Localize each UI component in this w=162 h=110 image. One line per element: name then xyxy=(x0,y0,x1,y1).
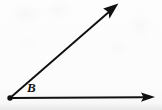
angle-diagram-svg xyxy=(0,0,162,110)
vertex-point-dot-icon xyxy=(7,95,12,100)
diagonal-ray-arrowhead-icon xyxy=(103,4,118,19)
diagonal-ray-line xyxy=(10,11,110,98)
angle-figure: B xyxy=(0,0,162,110)
horizontal-ray-line xyxy=(10,97,144,98)
vertex-label-b: B xyxy=(27,81,36,94)
